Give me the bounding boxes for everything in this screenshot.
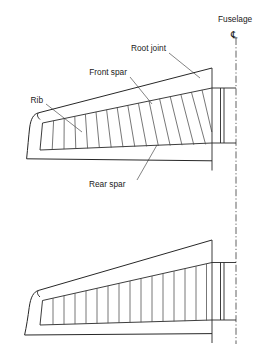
lower-wing-tip-outline: [25, 290, 39, 335]
rib: [202, 90, 212, 132]
rib: [181, 94, 194, 145]
upper-view: [27, 68, 236, 171]
upper-wing-tip-outline: [27, 113, 39, 159]
wing-rib-diagram: Fuselage ℄ Root joint Front spar Rib Rea…: [0, 0, 268, 344]
upper-rib-group: [52, 90, 212, 150]
rear-spar-label: Rear spar: [89, 179, 126, 189]
rib: [149, 101, 158, 146]
front-spar-label: Front spar: [89, 67, 127, 77]
rib: [85, 114, 87, 148]
root-joint-label: Root joint: [131, 43, 167, 53]
rib: [107, 110, 112, 148]
rib: [117, 108, 123, 148]
upper-trailing-edge: [27, 159, 212, 161]
fuselage-label: Fuselage: [218, 14, 253, 24]
diagram-canvas: Fuselage ℄ Root joint Front spar Rib Rea…: [0, 0, 268, 344]
lower-rear-spar: [40, 320, 212, 325]
upper-tip-rib: [40, 123, 43, 150]
rib: [52, 121, 53, 150]
lower-view: [25, 240, 236, 343]
rib-label: Rib: [31, 95, 44, 105]
rib: [170, 97, 182, 146]
lower-tip-rib: [40, 301, 43, 326]
front-spar-leader: [130, 77, 152, 104]
rib: [160, 99, 171, 146]
rib: [128, 105, 135, 147]
upper-rear-spar: [40, 143, 212, 150]
rear-spar-leader: [137, 145, 157, 180]
rib: [138, 103, 146, 146]
rib: [75, 116, 76, 149]
lower-trailing-edge: [25, 334, 212, 335]
lower-rib-group: [53, 264, 207, 325]
rib: [191, 92, 205, 144]
rib: [96, 112, 99, 148]
root-joint-leader: [169, 53, 200, 78]
centerline-symbol: ℄: [230, 29, 238, 40]
